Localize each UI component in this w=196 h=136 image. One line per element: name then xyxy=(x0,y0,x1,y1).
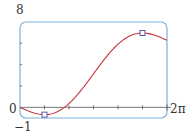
plot-frame xyxy=(20,22,167,118)
min-point-marker xyxy=(42,112,47,117)
max-point-marker xyxy=(140,31,145,36)
y-zero-label: 0 xyxy=(9,103,17,115)
x-max-label: 2π xyxy=(170,103,186,115)
y-max-label: 8 xyxy=(16,4,24,16)
y-min-label: −1 xyxy=(14,121,32,133)
chart-plot xyxy=(0,0,196,136)
function-curve xyxy=(20,33,167,115)
